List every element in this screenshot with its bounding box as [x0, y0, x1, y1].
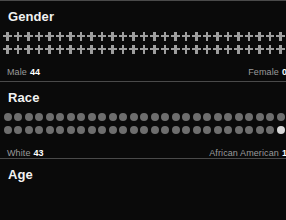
circle-icon: [150, 112, 161, 125]
cross-icon: [14, 44, 25, 57]
circle-icon: [35, 125, 46, 138]
section-race: Race White43 African American1: [0, 81, 286, 158]
cross-icon: [276, 44, 286, 57]
circle-icon: [3, 112, 14, 125]
circle-icon: [14, 112, 25, 125]
circle-icon: [24, 112, 35, 125]
cross-icon: [213, 44, 224, 57]
circle-icon: [140, 125, 151, 138]
section-age: Age: [0, 158, 286, 182]
cross-icon: [150, 44, 161, 57]
cross-icon: [182, 44, 193, 57]
legend-value: 44: [30, 67, 40, 77]
circle-icon: [108, 125, 119, 138]
legend-entry-male: Male44: [7, 61, 40, 79]
circle-icon: [77, 125, 88, 138]
circle-icon: [266, 112, 277, 125]
cross-icon: [35, 31, 46, 44]
circle-icon: [161, 125, 172, 138]
circle-icon: [45, 125, 56, 138]
cross-icon: [171, 31, 182, 44]
cross-icon: [45, 44, 56, 57]
cross-icon: [161, 31, 172, 44]
circle-icon: [98, 112, 109, 125]
legend-gender: Male44 Female0: [0, 57, 286, 72]
cross-icon: [119, 44, 130, 57]
cross-icon: [35, 44, 46, 57]
circle-icon: [87, 112, 98, 125]
circle-icon: [161, 112, 172, 125]
cross-icon: [66, 31, 77, 44]
cross-icon: [14, 31, 25, 44]
icon-row: [3, 125, 286, 138]
circle-icon: [24, 125, 35, 138]
cross-icon: [224, 31, 235, 44]
cross-icon: [66, 44, 77, 57]
cross-icon: [245, 31, 256, 44]
section-heading-age: Age: [0, 159, 286, 182]
circle-icon: [3, 125, 14, 138]
circle-icon: [203, 125, 214, 138]
section-gender: Gender Male44 Female0: [0, 0, 286, 81]
circle-icon: [14, 125, 25, 138]
cross-icon: [87, 31, 98, 44]
legend-label: African American: [209, 148, 279, 158]
circle-icon: [234, 125, 245, 138]
demographics-panel: Gender Male44 Female0 Race White43: [0, 0, 286, 182]
cross-icon: [98, 44, 109, 57]
cross-icon: [203, 44, 214, 57]
cross-icon: [87, 44, 98, 57]
cross-icon: [77, 44, 88, 57]
legend-value: 43: [34, 148, 44, 158]
legend-label: Female: [248, 67, 279, 77]
cross-icon: [56, 31, 67, 44]
cross-icon: [129, 44, 140, 57]
circle-icon: [66, 112, 77, 125]
cross-icon: [161, 44, 172, 57]
cross-icon: [108, 31, 119, 44]
cross-icon: [24, 31, 35, 44]
circle-icon: [77, 112, 88, 125]
cross-icon: [77, 31, 88, 44]
circle-icon: [203, 112, 214, 125]
cross-icon: [98, 31, 109, 44]
cross-icon: [108, 44, 119, 57]
cross-icon: [3, 31, 14, 44]
cross-icon: [171, 44, 182, 57]
icon-row: [3, 44, 286, 57]
cross-icon: [150, 31, 161, 44]
circle-icon: [171, 125, 182, 138]
cross-icon: [266, 44, 277, 57]
cross-icon: [224, 44, 235, 57]
cross-icon: [119, 31, 130, 44]
cross-icon: [140, 31, 151, 44]
circle-icon: [98, 125, 109, 138]
circle-icon: [245, 125, 256, 138]
cross-icon: [3, 44, 14, 57]
circle-icon: [255, 112, 266, 125]
circle-icon: [234, 112, 245, 125]
legend-value: 1: [282, 148, 286, 158]
cross-icon: [255, 31, 266, 44]
circle-icon: [56, 112, 67, 125]
cross-icon: [129, 31, 140, 44]
circle-icon: [192, 125, 203, 138]
circle-icon: [276, 125, 286, 138]
cross-icon: [24, 44, 35, 57]
circle-icon: [224, 125, 235, 138]
circle-icon: [213, 112, 224, 125]
cross-icon: [213, 31, 224, 44]
legend-race: White43 African American1: [0, 138, 286, 153]
circle-icon: [35, 112, 46, 125]
cross-icon: [255, 44, 266, 57]
circle-icon: [182, 125, 193, 138]
circle-icon: [255, 125, 266, 138]
circle-icon: [119, 125, 130, 138]
cross-icon: [276, 31, 286, 44]
cross-icon: [192, 44, 203, 57]
cross-icon: [56, 44, 67, 57]
legend-value: 0: [282, 67, 286, 77]
legend-entry-female: Female0: [248, 61, 286, 79]
circle-icon: [276, 112, 286, 125]
circle-icon: [182, 112, 193, 125]
